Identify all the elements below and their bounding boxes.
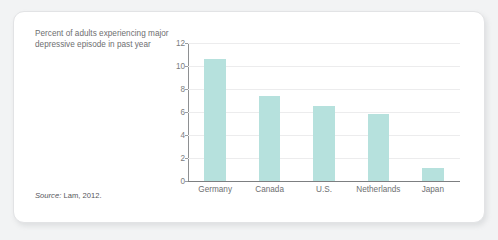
bar	[259, 96, 281, 181]
gridline	[188, 89, 460, 90]
x-axis-line	[188, 181, 460, 182]
x-tick-label: U.S.	[316, 185, 332, 194]
x-tick-label: Japan	[422, 185, 444, 194]
source-note: Source: Lam, 2012.	[35, 191, 102, 200]
y-tick-mark	[185, 66, 188, 67]
x-tick-label: Canada	[255, 185, 284, 194]
figure-card: Percent of adults experiencing major dep…	[13, 11, 485, 223]
x-tick-label: Netherlands	[356, 185, 400, 194]
y-tick-mark	[185, 43, 188, 44]
y-tick-mark	[185, 158, 188, 159]
y-tick-mark	[185, 181, 188, 182]
x-tick-label: Germany	[198, 185, 232, 194]
plot-area: 024681012 GermanyCanadaU.S.NetherlandsJa…	[188, 43, 460, 181]
bar-chart: 024681012 GermanyCanadaU.S.NetherlandsJa…	[174, 32, 464, 194]
bar	[313, 106, 335, 181]
gridline	[188, 66, 460, 67]
chart-title: Percent of adults experiencing major dep…	[35, 28, 185, 51]
source-text: Lam, 2012.	[61, 191, 101, 200]
bar	[422, 168, 444, 181]
bar	[368, 114, 390, 181]
gridline	[188, 43, 460, 44]
y-tick-label: 12	[176, 39, 185, 48]
y-tick-mark	[185, 89, 188, 90]
y-tick-mark	[185, 112, 188, 113]
source-label: Source:	[35, 191, 61, 200]
bar	[204, 59, 226, 181]
y-tick-mark	[185, 135, 188, 136]
y-tick-label: 10	[176, 62, 185, 71]
